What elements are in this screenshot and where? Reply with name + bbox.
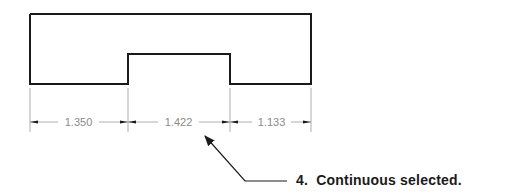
dimension-label: 1.350 [65, 116, 93, 128]
dimension-3: 1.133 [230, 116, 311, 128]
technical-drawing: 1.350 1.422 1.133 [0, 0, 505, 195]
arrowhead-icon [222, 121, 230, 124]
leader-line [205, 136, 287, 181]
arrowhead-icon [128, 121, 136, 124]
arrowhead-icon [30, 121, 38, 124]
callout-label: 4. Continuous selected. [296, 172, 462, 188]
dimension-label: 1.133 [258, 116, 286, 128]
arrowhead-icon [120, 121, 128, 124]
dimension-label: 1.422 [165, 116, 193, 128]
dimension-2: 1.422 [128, 116, 230, 128]
arrowhead-icon [303, 121, 311, 124]
object-outline [30, 14, 311, 84]
dimension-1: 1.350 [30, 116, 128, 128]
arrowhead-icon [230, 121, 238, 124]
